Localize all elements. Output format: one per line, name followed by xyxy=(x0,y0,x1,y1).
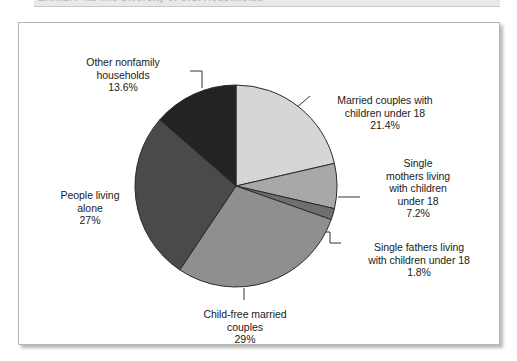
slice-label-single-fathers: Single fathers living with children unde… xyxy=(344,229,494,291)
slice-label-text-other: Other nonfamily households xyxy=(86,56,159,80)
slice-label-text-alone: People living alone xyxy=(61,189,120,213)
leader-line-other-nonfamily xyxy=(190,71,202,88)
pie-slices xyxy=(135,85,337,287)
slice-percent-married: 21.4% xyxy=(313,119,457,131)
slice-percent-mothers: 7.2% xyxy=(366,207,470,219)
slice-label-text-mothers: Single mothers living with children unde… xyxy=(386,157,450,206)
slice-label-single-mothers: Single mothers living with children unde… xyxy=(366,145,470,232)
pie-chart: Other nonfamily households 13.6% Married… xyxy=(0,0,517,361)
slice-percent-fathers: 1.8% xyxy=(344,266,494,278)
slice-percent-other: 13.6% xyxy=(58,81,188,93)
figure-page: EXHIBIT 4.2 The Diversity of U.S. Househ… xyxy=(0,0,517,361)
slice-label-text-childfree: Child-free married couples xyxy=(203,308,286,332)
slice-label-text-fathers: Single fathers living with children unde… xyxy=(368,241,470,265)
slice-label-text-married: Married couples with children under 18 xyxy=(337,94,432,118)
slice-percent-alone: 27% xyxy=(32,214,148,226)
slice-label-people-living-alone: People living alone 27% xyxy=(32,177,148,239)
slice-label-married-couples: Married couples with children under 18 2… xyxy=(313,82,457,144)
slice-label-child-free-married: Child-free married couples 29% xyxy=(175,296,315,358)
slice-label-other-nonfamily-households: Other nonfamily households 13.6% xyxy=(58,44,188,106)
slice-percent-childfree: 29% xyxy=(175,333,315,345)
